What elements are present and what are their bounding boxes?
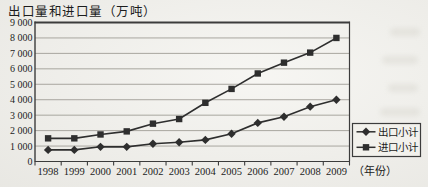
series-line-出口小计 xyxy=(48,100,336,150)
data-point-diamond xyxy=(332,96,340,104)
x-tick-label: 1998 xyxy=(38,166,59,177)
data-point-square xyxy=(124,128,130,134)
data-point-diamond xyxy=(44,146,52,154)
x-tick-label: 2008 xyxy=(300,166,321,177)
data-point-diamond xyxy=(123,143,131,151)
x-tick-label: 2002 xyxy=(142,166,163,177)
y-tick-label: 9 000 xyxy=(10,17,33,28)
data-point-square xyxy=(45,135,51,141)
legend-marker-square xyxy=(363,144,369,150)
data-point-square xyxy=(71,135,77,141)
y-tick-label: 8 000 xyxy=(10,32,33,43)
scanned-chart-page: 出口量和进口量（万吨） 01 0002 0003 0004 0005 0006 … xyxy=(0,0,428,187)
x-axis-unit-label: （年份） xyxy=(353,164,397,177)
scan-artifact xyxy=(380,108,420,116)
x-tick-label: 2005 xyxy=(221,166,242,177)
x-tick-label: 2009 xyxy=(326,166,347,177)
x-tick-label: 2003 xyxy=(169,166,190,177)
data-point-square xyxy=(202,100,208,106)
data-point-square xyxy=(150,120,156,126)
y-tick-label: 7 000 xyxy=(10,48,33,59)
data-point-square xyxy=(97,131,103,137)
y-tick-label: 5 000 xyxy=(10,79,33,90)
x-tick-label: 2006 xyxy=(247,166,268,177)
x-tick-label: 2000 xyxy=(90,166,111,177)
y-tick-label: 4 000 xyxy=(10,94,33,105)
data-point-diamond xyxy=(175,138,183,146)
scan-artifact xyxy=(390,28,420,36)
data-point-square xyxy=(333,35,339,41)
y-tick-label: 3 000 xyxy=(10,110,33,121)
y-tick-label: 2 000 xyxy=(10,125,33,136)
data-point-diamond xyxy=(201,136,209,144)
data-point-diamond xyxy=(149,140,157,148)
data-point-square xyxy=(176,116,182,122)
data-point-square xyxy=(255,70,261,76)
y-tick-label: 6 000 xyxy=(10,63,33,74)
y-tick-label: 1 000 xyxy=(10,141,33,152)
x-tick-label: 2004 xyxy=(195,166,217,177)
scan-artifact xyxy=(388,84,418,92)
data-point-diamond xyxy=(96,143,104,151)
x-tick-label: 1999 xyxy=(64,166,85,177)
data-point-diamond xyxy=(280,113,288,121)
data-point-diamond xyxy=(254,119,262,127)
legend-label: 出口小计 xyxy=(378,126,419,138)
x-tick-label: 2001 xyxy=(116,166,137,177)
chart-canvas: 01 0002 0003 0004 0005 0006 0007 0008 00… xyxy=(0,0,428,187)
data-point-diamond xyxy=(306,102,314,110)
data-point-diamond xyxy=(70,146,78,154)
legend-label: 进口小计 xyxy=(378,141,419,153)
y-tick-label: 0 xyxy=(28,156,33,167)
scan-artifact xyxy=(382,56,418,64)
data-point-square xyxy=(228,86,234,92)
data-point-square xyxy=(281,59,287,65)
data-point-square xyxy=(307,49,313,55)
x-tick-label: 2007 xyxy=(273,166,294,177)
